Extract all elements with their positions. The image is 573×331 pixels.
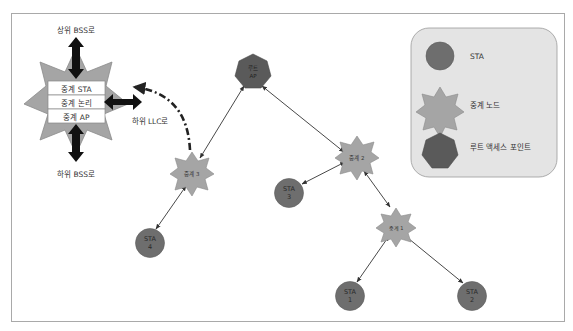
- upper-bss-label: 상위 BSS로: [57, 25, 95, 35]
- sta-4-label-line2: 4: [148, 243, 152, 251]
- node-sta-3[interactable]: STA 3: [275, 179, 304, 208]
- node-sta-2[interactable]: STA 2: [458, 282, 487, 311]
- node-relay-2[interactable]: 중계 2: [335, 136, 379, 180]
- relay-layer-logic-label: 중계 논리: [61, 98, 91, 108]
- root-ap-label-line1: 루트: [248, 65, 258, 72]
- circle-icon: [426, 42, 454, 70]
- relay-1-label: 중계 1: [389, 225, 404, 232]
- relay-layer-ap: 중계 AP: [48, 109, 105, 123]
- legend-root-ap-label: 루트 액세스 포인트: [470, 142, 531, 152]
- relay-layer-ap-label: 중계 AP: [63, 112, 90, 122]
- sta-1-label-line2: 1: [348, 296, 352, 304]
- relay-layer-sta-label: 중계 STA: [61, 84, 92, 94]
- sta-1-label-line1: STA: [344, 288, 357, 296]
- star-icon: [416, 87, 464, 137]
- node-relay-3[interactable]: 중계 3: [170, 152, 214, 196]
- sta-3-label-line1: STA: [283, 185, 296, 193]
- sta-4-label-line1: STA: [144, 235, 157, 243]
- sta-2-label-line1: STA: [466, 288, 479, 296]
- legend-relay-label: 중계 노드: [470, 100, 500, 110]
- relay-3-label: 중계 3: [184, 170, 200, 178]
- legend: STA 중계 노드 루트 액세스 포인트: [411, 28, 557, 177]
- node-sta-1[interactable]: STA 1: [336, 282, 365, 311]
- relay-network-diagram: 중계 STA 중계 논리 중계 AP 상위 BSS로 하위 BSS로 하위 LL…: [0, 0, 573, 331]
- relay-layer-logic: 중계 논리: [48, 95, 105, 109]
- lower-llc-label: 하위 LLC로: [132, 116, 169, 126]
- node-sta-4[interactable]: STA 4: [136, 229, 165, 258]
- lower-bss-label: 하위 BSS로: [57, 169, 95, 179]
- relay-2-label: 중계 2: [349, 154, 364, 162]
- root-ap-label-line2: AP: [249, 73, 257, 79]
- sta-2-label-line2: 2: [470, 296, 474, 304]
- legend-sta-label: STA: [470, 52, 485, 61]
- relay-layer-sta: 중계 STA: [48, 81, 105, 95]
- sta-3-label-line2: 3: [287, 193, 291, 201]
